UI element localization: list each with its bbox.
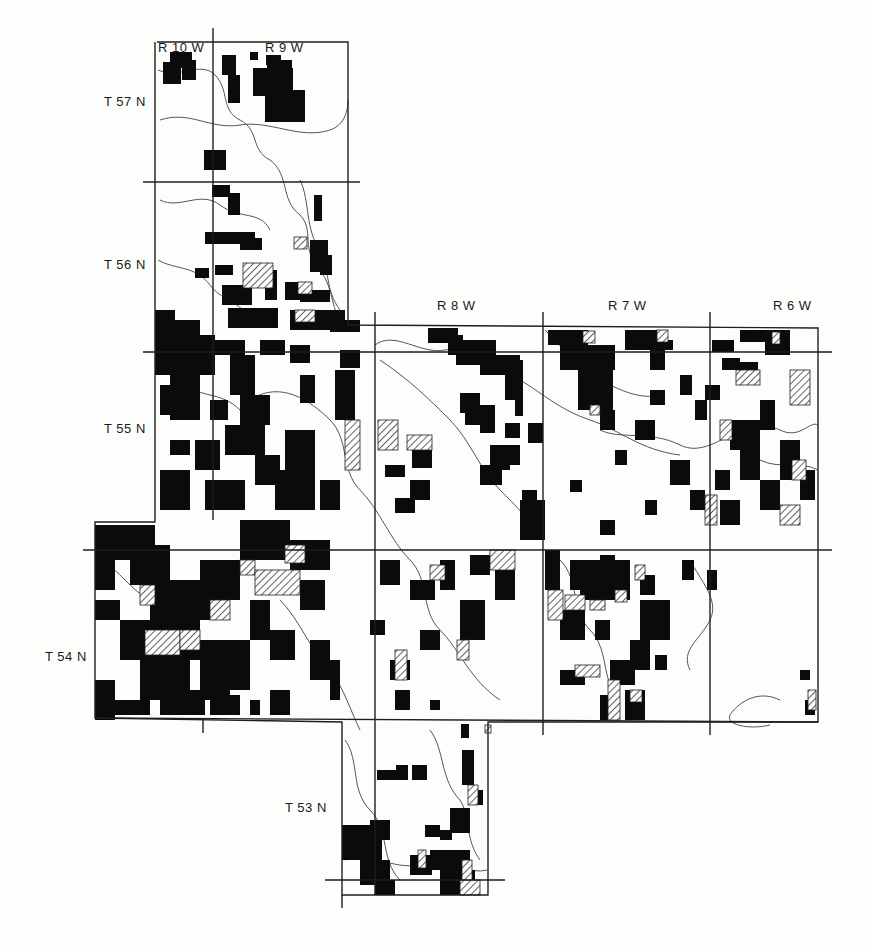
solid-parcels: [95, 52, 815, 895]
township-label-t55n: T 55 N: [104, 421, 146, 436]
range-label-r6w: R 6 W: [773, 298, 812, 313]
range-label-r8w: R 8 W: [437, 298, 476, 313]
township-map: [0, 0, 870, 946]
township-label-t57n: T 57 N: [104, 94, 146, 109]
township-label-t56n: T 56 N: [104, 257, 146, 272]
township-label-t53n: T 53 N: [285, 800, 327, 815]
township-label-t54n: T 54 N: [45, 649, 87, 664]
range-label-r9w: R 9 W: [265, 40, 304, 55]
range-label-r7w: R 7 W: [608, 298, 647, 313]
range-label-r10w: R 10 W: [158, 40, 204, 55]
